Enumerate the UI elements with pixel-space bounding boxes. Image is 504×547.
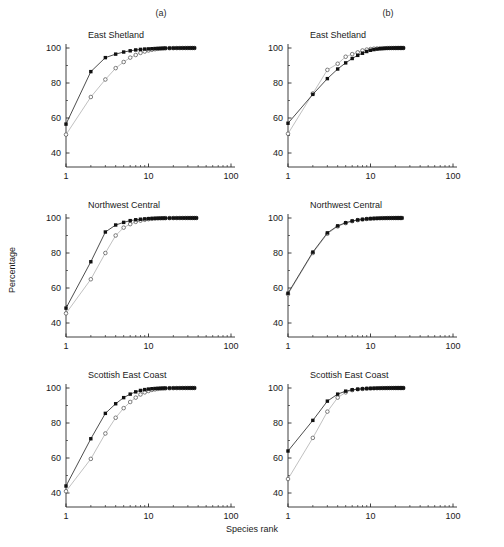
- data-point-filled-square: [134, 390, 137, 393]
- x-tick-label: 10: [143, 511, 153, 521]
- data-point-filled-square: [104, 412, 107, 415]
- y-tick-label: 40: [51, 148, 61, 158]
- y-tick-label: 100: [46, 383, 61, 393]
- data-point-filled-square: [64, 306, 67, 309]
- data-point-filled-square: [193, 46, 196, 49]
- y-tick-label: 40: [273, 488, 283, 498]
- data-point-filled-square: [361, 387, 364, 390]
- y-tick-label: 100: [46, 43, 61, 53]
- data-point-filled-square: [139, 218, 142, 221]
- data-point-filled-square: [336, 67, 339, 70]
- data-point-open-circle: [114, 416, 118, 420]
- data-point-open-circle: [104, 432, 108, 436]
- data-point-open-circle: [139, 51, 143, 55]
- data-point-filled-square: [172, 216, 175, 219]
- x-tick-label: 1: [63, 171, 68, 181]
- data-point-filled-square: [286, 292, 289, 295]
- x-tick-label: 1: [63, 511, 68, 521]
- y-tick-label: 100: [268, 383, 283, 393]
- data-point-filled-square: [139, 48, 142, 51]
- data-point-filled-square: [286, 122, 289, 125]
- data-point-filled-square: [365, 50, 368, 53]
- series-line: [288, 218, 402, 294]
- data-point-open-circle: [89, 95, 93, 99]
- data-point-filled-square: [134, 48, 137, 51]
- x-tick-label: 100: [445, 511, 460, 521]
- series-line: [288, 48, 403, 123]
- data-point-filled-square: [365, 387, 368, 390]
- x-tick-label: 100: [223, 171, 238, 181]
- data-point-filled-square: [175, 46, 178, 49]
- data-point-filled-square: [89, 437, 92, 440]
- data-point-filled-square: [351, 57, 354, 60]
- data-point-filled-square: [369, 49, 372, 52]
- x-tick-label: 100: [223, 341, 238, 351]
- data-point-filled-square: [114, 402, 117, 405]
- plot-area: 406080100110100: [32, 208, 267, 356]
- data-point-filled-square: [172, 386, 175, 389]
- y-tick-label: 60: [273, 283, 283, 293]
- data-point-filled-square: [147, 47, 150, 50]
- data-point-filled-square: [175, 386, 178, 389]
- y-tick-label: 40: [51, 488, 61, 498]
- data-point-filled-square: [114, 223, 117, 226]
- y-tick-label: 80: [51, 78, 61, 88]
- data-point-filled-square: [172, 46, 175, 49]
- data-point-filled-square: [175, 216, 178, 219]
- y-tick-label: 40: [51, 318, 61, 328]
- data-point-open-circle: [104, 251, 108, 255]
- data-point-filled-square: [89, 70, 92, 73]
- column-label-a: (a): [141, 8, 181, 18]
- data-point-filled-square: [372, 387, 375, 390]
- column-label-b: (b): [368, 8, 408, 18]
- plot-area: 406080100110100: [254, 378, 489, 526]
- data-point-filled-square: [139, 389, 142, 392]
- data-point-filled-square: [369, 217, 372, 220]
- y-tick-label: 80: [273, 78, 283, 88]
- data-point-filled-square: [64, 122, 67, 125]
- data-point-open-circle: [114, 234, 118, 238]
- data-point-open-circle: [311, 436, 315, 440]
- data-point-filled-square: [311, 250, 314, 253]
- data-point-filled-square: [356, 388, 359, 391]
- data-point-filled-square: [344, 389, 347, 392]
- data-point-filled-square: [129, 219, 132, 222]
- data-point-open-circle: [89, 277, 93, 281]
- plot-area: 406080100110100: [254, 38, 489, 186]
- data-point-filled-square: [150, 387, 153, 390]
- data-point-filled-square: [361, 218, 364, 221]
- data-point-open-circle: [134, 396, 138, 400]
- x-tick-label: 10: [365, 341, 375, 351]
- data-point-filled-square: [164, 386, 167, 389]
- y-tick-label: 80: [273, 418, 283, 428]
- data-point-filled-square: [400, 216, 403, 219]
- plot-area: 406080100110100: [254, 208, 489, 356]
- data-point-filled-square: [122, 396, 125, 399]
- y-tick-label: 60: [51, 283, 61, 293]
- x-tick-label: 100: [445, 171, 460, 181]
- data-point-open-circle: [326, 68, 330, 72]
- data-point-filled-square: [286, 449, 289, 452]
- data-point-open-circle: [122, 226, 126, 230]
- y-tick-label: 100: [268, 43, 283, 53]
- data-point-filled-square: [147, 217, 150, 220]
- data-point-filled-square: [168, 386, 171, 389]
- x-tick-label: 100: [445, 341, 460, 351]
- series-line: [288, 388, 403, 479]
- x-tick-label: 1: [63, 341, 68, 351]
- series-line: [288, 388, 403, 451]
- series-line: [66, 218, 196, 308]
- data-point-filled-square: [344, 221, 347, 224]
- x-tick-label: 10: [143, 341, 153, 351]
- data-point-open-circle: [89, 457, 93, 461]
- data-point-filled-square: [344, 61, 347, 64]
- data-point-open-circle: [134, 53, 138, 57]
- data-point-filled-square: [195, 216, 198, 219]
- data-point-filled-square: [122, 221, 125, 224]
- data-point-filled-square: [129, 392, 132, 395]
- series-line: [66, 48, 194, 135]
- data-point-filled-square: [104, 230, 107, 233]
- data-point-filled-square: [150, 47, 153, 50]
- data-point-filled-square: [311, 419, 314, 422]
- figure-container: (a) (b) East ShetlandEast ShetlandNorthw…: [0, 0, 504, 547]
